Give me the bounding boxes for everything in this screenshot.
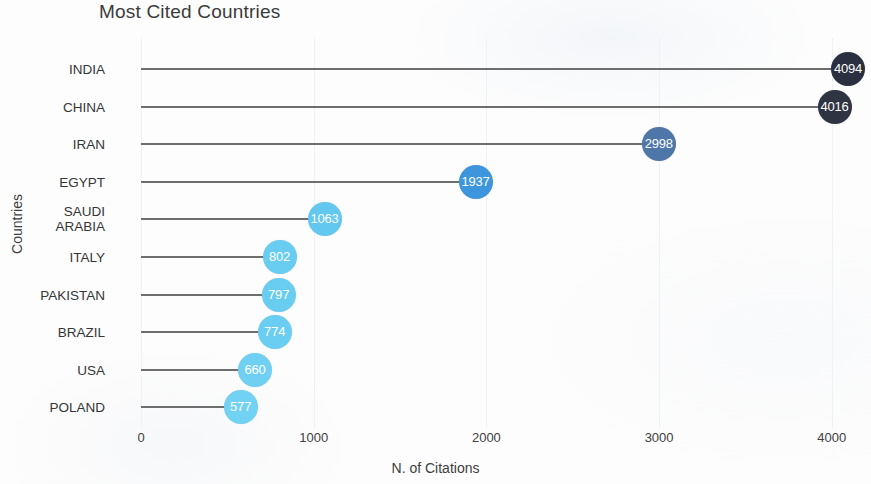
lollipop-point[interactable]: 4016	[818, 90, 852, 124]
y-category-label-poland: POLAND	[49, 400, 105, 415]
lollipop-point[interactable]: 2998	[642, 127, 676, 161]
lollipop-stem	[141, 106, 835, 108]
y-category-label-brazil: BRAZIL	[58, 325, 105, 340]
chart-title: Most Cited Countries	[99, 1, 280, 23]
lollipop-stem	[141, 331, 275, 333]
x-tick-label: 0	[137, 430, 144, 445]
gridline-x-3000	[659, 38, 660, 428]
y-category-label-india: INDIA	[69, 62, 105, 77]
y-category-label-iran: IRAN	[73, 137, 105, 152]
gridline-x-2000	[486, 38, 487, 428]
data-point-value-label: 797	[268, 287, 289, 302]
lollipop-point[interactable]: 1063	[308, 202, 342, 236]
lollipop-point[interactable]: 802	[263, 240, 297, 274]
lollipop-point[interactable]: 577	[224, 390, 258, 424]
data-point-value-label: 1937	[461, 174, 489, 189]
x-tick-label: 1000	[299, 430, 328, 445]
data-point-value-label: 1063	[311, 211, 339, 226]
x-tick-label: 2000	[472, 430, 501, 445]
data-point-value-label: 577	[230, 399, 251, 414]
data-point-value-label: 660	[244, 362, 265, 377]
y-category-label-saudi-arabia: SAUDI ARABIA	[55, 204, 105, 234]
x-tick-label: 3000	[645, 430, 674, 445]
lollipop-chart: Most Cited Countries Countries N. of Cit…	[0, 0, 871, 484]
y-category-label-china: CHINA	[63, 99, 105, 114]
lollipop-stem	[141, 143, 659, 145]
lollipop-point[interactable]: 774	[258, 315, 292, 349]
data-point-value-label: 802	[269, 249, 290, 264]
y-category-label-italy: ITALY	[69, 250, 105, 265]
paper-texture-overlay	[0, 0, 871, 484]
x-axis-title: N. of Citations	[0, 460, 871, 476]
lollipop-point[interactable]: 4094	[831, 52, 865, 86]
data-point-value-label: 774	[264, 324, 285, 339]
lollipop-stem	[141, 218, 325, 220]
lollipop-point[interactable]: 1937	[459, 165, 493, 199]
data-point-value-label: 2998	[645, 136, 673, 151]
lollipop-point[interactable]: 797	[262, 278, 296, 312]
lollipop-stem	[141, 68, 848, 70]
y-category-label-pakistan: PAKISTAN	[40, 287, 105, 302]
lollipop-stem	[141, 181, 476, 183]
lollipop-stem	[141, 294, 279, 296]
x-tick-label: 4000	[817, 430, 846, 445]
y-axis-title: Countries	[9, 179, 25, 269]
y-category-label-egypt: EGYPT	[59, 174, 105, 189]
data-point-value-label: 4016	[821, 99, 849, 114]
data-point-value-label: 4094	[834, 61, 862, 76]
y-category-label-usa: USA	[77, 362, 105, 377]
lollipop-stem	[141, 256, 280, 258]
lollipop-point[interactable]: 660	[238, 353, 272, 387]
